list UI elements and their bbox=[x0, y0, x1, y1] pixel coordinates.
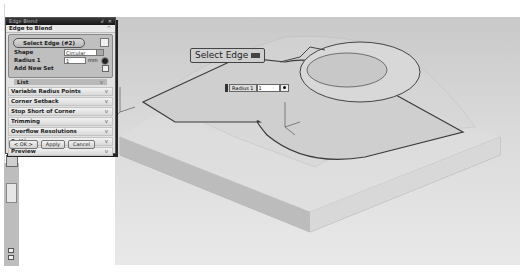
part-navigator-tab[interactable] bbox=[6, 183, 17, 203]
dialog-title-controls[interactable]: ↲ ✕ bbox=[100, 18, 113, 25]
drag-handle[interactable] bbox=[225, 84, 228, 92]
chevron-down-icon: v bbox=[105, 118, 108, 125]
toolbar-mini-icon-1[interactable] bbox=[8, 248, 14, 253]
section-label: Overflow Resolutions bbox=[11, 128, 77, 134]
apply-button[interactable]: Apply bbox=[41, 140, 65, 149]
resource-bar bbox=[4, 163, 19, 266]
chevron-up-icon: ^ bbox=[106, 25, 111, 32]
chevron-down-icon: v bbox=[105, 108, 108, 115]
list-label: List bbox=[17, 79, 28, 85]
chevron-down-icon: v bbox=[105, 148, 108, 155]
cancel-button[interactable]: Cancel bbox=[68, 140, 95, 149]
toolbar-mini-icon-2[interactable] bbox=[8, 255, 14, 260]
shape-dropdown[interactable]: Circular bbox=[64, 49, 104, 56]
chevron-down-icon: v bbox=[105, 98, 108, 105]
select-edge-tooltip-text: Select Edge bbox=[195, 50, 248, 60]
edge-selection-icon[interactable] bbox=[100, 38, 109, 47]
chevron-down-icon: v bbox=[100, 79, 103, 85]
add-new-set-button[interactable] bbox=[102, 65, 109, 72]
dialog-button-bar: < OK > Apply Cancel bbox=[9, 140, 95, 149]
shape-label: Shape bbox=[14, 49, 33, 56]
section-variable-radius-points[interactable]: Variable Radius Pointsv bbox=[8, 87, 113, 96]
edge-blend-dialog: Edge Blend ↲ ✕ Edge to Blend ^ Select Ed… bbox=[5, 17, 116, 154]
chevron-down-icon: v bbox=[105, 138, 108, 145]
radius-onscreen-input[interactable]: Radius 1 1 bbox=[225, 84, 289, 91]
edge-to-blend-group: Select Edge (#2) Shape Circular Radius 1… bbox=[8, 34, 113, 78]
radius-label: Radius 1 bbox=[14, 57, 41, 64]
radius-input[interactable]: 1 bbox=[64, 57, 86, 64]
section-corner-setback[interactable]: Corner Setbackv bbox=[8, 97, 113, 106]
chevron-down-icon: v bbox=[105, 88, 108, 95]
section-trimming[interactable]: Trimmingv bbox=[8, 117, 113, 126]
dialog-titlebar[interactable]: Edge Blend ↲ ✕ bbox=[6, 18, 115, 25]
radius-options-button[interactable] bbox=[101, 57, 109, 65]
section-overflow-resolutions[interactable]: Overflow Resolutionsv bbox=[8, 127, 113, 136]
dropdown-arrow-icon bbox=[96, 50, 103, 55]
dialog-title: Edge Blend bbox=[9, 18, 37, 24]
ok-button[interactable]: < OK > bbox=[9, 140, 38, 149]
shape-value: Circular bbox=[66, 50, 85, 56]
radius-unit: mm bbox=[88, 57, 98, 64]
section-edge-to-blend[interactable]: Edge to Blend ^ bbox=[6, 25, 115, 33]
chevron-down-icon: v bbox=[105, 128, 108, 135]
cad-model bbox=[115, 17, 520, 265]
select-edge-button[interactable]: Select Edge (#2) bbox=[13, 38, 85, 48]
select-edge-tooltip: Select Edge bbox=[190, 48, 265, 63]
section-stop-short-of-corner[interactable]: Stop Short of Cornerv bbox=[8, 107, 113, 116]
section-label: Edge to Blend bbox=[9, 25, 52, 31]
graphics-viewport[interactable] bbox=[115, 17, 520, 265]
radius-float-field[interactable]: 1 bbox=[257, 84, 280, 92]
section-label: Variable Radius Points bbox=[11, 88, 81, 94]
radius-float-label: Radius 1 bbox=[229, 84, 257, 92]
section-label: Corner Setback bbox=[11, 98, 59, 104]
assembly-navigator-icon[interactable] bbox=[6, 155, 18, 167]
radius-float-options-button[interactable] bbox=[280, 84, 289, 92]
selection-filter-icon bbox=[251, 53, 260, 58]
section-label: Stop Short of Corner bbox=[11, 108, 75, 114]
list-section[interactable]: List v bbox=[14, 79, 107, 85]
section-label: Trimming bbox=[11, 118, 40, 124]
add-new-set-label: Add New Set bbox=[14, 65, 54, 72]
